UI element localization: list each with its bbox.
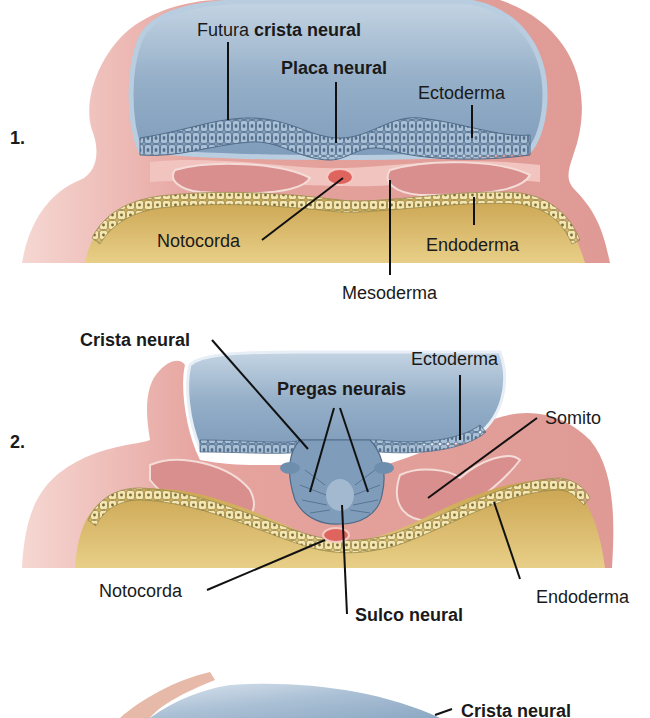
label-crista-neural-2: Crista neural	[80, 330, 190, 350]
label-futura-bold: crista neural	[254, 20, 361, 40]
neural-crest-left	[280, 462, 300, 474]
label-pregas-neurais: Pregas neurais	[277, 379, 406, 399]
label-ectoderma-1: Ectoderma	[418, 83, 505, 103]
label-endoderma-2: Endoderma	[536, 587, 629, 607]
neurulation-diagram: 1. Futura crista neural Placa neural Ect…	[0, 0, 650, 718]
label-ectoderma-2: Ectoderma	[411, 349, 498, 369]
label-futura-crista-neural: Futura crista neural	[197, 20, 361, 40]
panel-2-number: 2.	[10, 432, 25, 453]
panel-3-leader-line	[435, 709, 452, 715]
panel-2-notochord	[323, 528, 349, 542]
label-placa-neural: Placa neural	[281, 58, 387, 78]
label-notocorda-1: Notocorda	[157, 231, 240, 251]
panel-1-number: 1.	[10, 128, 25, 149]
label-notocorda-2: Notocorda	[99, 581, 182, 601]
label-crista-neural-3: Crista neural	[461, 701, 571, 718]
neural-groove	[326, 479, 354, 511]
label-somito: Somito	[545, 408, 601, 428]
label-mesoderma-1: Mesoderma	[342, 283, 437, 303]
panel-1-illustration	[0, 0, 650, 718]
label-endoderma-1: Endoderma	[426, 235, 519, 255]
notochord	[327, 169, 353, 185]
neural-crest-right	[374, 462, 394, 474]
label-futura-prefix: Futura	[197, 20, 254, 40]
label-sulco-neural: Sulco neural	[355, 605, 463, 625]
